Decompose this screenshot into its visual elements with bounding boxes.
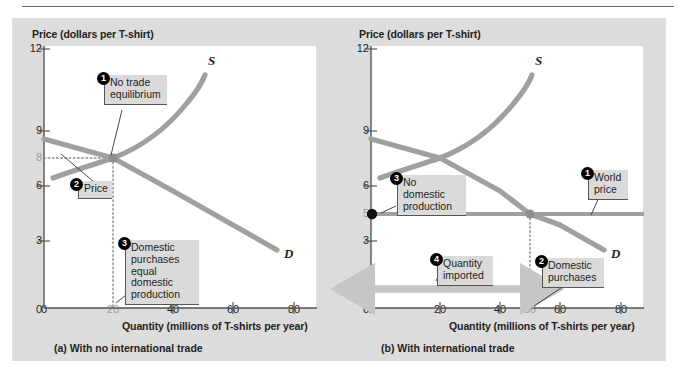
panel-b: Price (dollars per T-shirt) 12 9 6 5 3 0… <box>339 18 666 361</box>
panel-b-supply-curve <box>380 75 532 178</box>
panel-a-caption: (a) With no international trade <box>54 342 203 354</box>
panel-a-callout-num-1: 1 <box>97 72 110 85</box>
panel-b-callout-quantity-imported: Quantity imported <box>437 256 493 286</box>
panel-a-equilibrium-point <box>108 153 117 162</box>
panel-b-callout-num-4: 4 <box>430 253 443 266</box>
panel-b-callout-num-2: 2 <box>535 255 548 268</box>
panel-b-callout-num-3: 3 <box>390 172 403 185</box>
panel-b-supply-label: S <box>535 53 542 68</box>
panel-a-callout-price: Price <box>78 181 112 199</box>
panel-b-no-domestic-production-point <box>367 209 377 219</box>
panel-b-caption: (b) With international trade <box>381 342 515 354</box>
panel-b-demand-label: D <box>610 246 621 261</box>
header-divider <box>22 6 674 7</box>
panel-a: Price (dollars per T-shirt) 12 9 8 6 3 0… <box>12 18 339 361</box>
panel-a-x-axis-title: Quantity (millions of T-shirts per year) <box>122 320 308 332</box>
panel-a-callout-domestic-purchases: Domestic purchases equal domestic produc… <box>125 240 199 305</box>
panel-a-chart: S D <box>12 18 339 361</box>
panel-b-callout-num-1: 1 <box>581 167 594 180</box>
panel-b-domestic-purchases-point <box>525 209 534 218</box>
panel-a-demand-label: D <box>283 246 294 261</box>
panel-a-callout-no-trade-equilibrium: No trade equilibrium <box>104 75 167 105</box>
panel-b-callout-no-domestic-production: No domestic production <box>397 175 466 216</box>
panel-a-callout-num-2: 2 <box>70 178 83 191</box>
panel-a-supply-label: S <box>208 53 215 68</box>
economics-figure: Price (dollars per T-shirt) 12 9 8 6 3 0… <box>0 0 678 378</box>
panel-a-callout-num-3: 3 <box>118 237 131 250</box>
panel-b-callout-domestic-purchases: Domestic purchases <box>542 258 604 288</box>
panel-b-callout-world-price: World price <box>588 170 628 200</box>
panel-b-x-axis-title: Quantity (millions of T-shirts per year) <box>449 320 635 332</box>
